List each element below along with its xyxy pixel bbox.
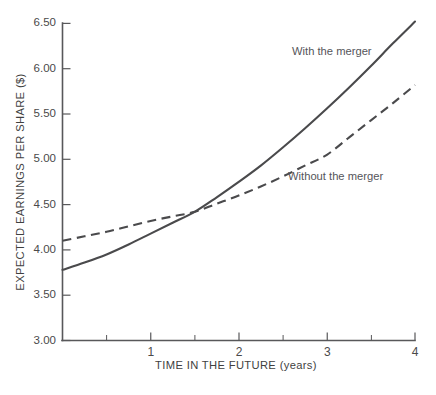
x-axis-labels: 1 2 3 4 [147, 345, 418, 359]
series-line-without-merger [63, 85, 416, 241]
svg-text:3.00: 3.00 [34, 334, 56, 346]
svg-text:3: 3 [324, 345, 331, 359]
svg-text:1: 1 [147, 345, 154, 359]
svg-text:5.50: 5.50 [34, 107, 56, 119]
x-axis-ticks [107, 333, 415, 341]
annotation-without-merger: Without the merger [288, 170, 383, 182]
series-line-with-merger [63, 22, 416, 270]
svg-text:4.50: 4.50 [34, 198, 56, 210]
svg-text:2: 2 [236, 345, 243, 359]
annotation-with-merger: With the merger [292, 45, 372, 57]
chart-figure: EXPECTED EARNINGS PER SHARE ($) TIME IN … [0, 0, 436, 395]
y-axis-labels: 3.00 3.50 4.00 4.50 5.00 5.50 6.00 6.50 [34, 16, 56, 345]
y-axis-title: EXPECTED EARNINGS PER SHARE ($) [14, 73, 26, 290]
svg-text:4: 4 [412, 345, 419, 359]
earnings-per-share-line-chart: EXPECTED EARNINGS PER SHARE ($) TIME IN … [0, 0, 436, 395]
svg-text:5.00: 5.00 [34, 152, 56, 164]
x-axis-title: TIME IN THE FUTURE (years) [155, 359, 317, 371]
svg-text:6.00: 6.00 [34, 62, 56, 74]
svg-text:6.50: 6.50 [34, 16, 56, 28]
svg-text:4.00: 4.00 [34, 243, 56, 255]
y-axis-ticks [63, 23, 71, 340]
svg-text:3.50: 3.50 [34, 288, 56, 300]
